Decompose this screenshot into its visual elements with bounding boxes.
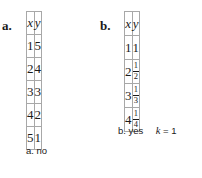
fraction: 1 3 xyxy=(133,85,139,104)
table-b-cell-y: 1 2 xyxy=(132,60,140,84)
table-b-header-y: y xyxy=(132,12,140,36)
table-row: 2 1 2 xyxy=(125,60,140,84)
table-a-header-x: x xyxy=(27,12,35,35)
table-row: 3 1 3 xyxy=(125,84,140,108)
answer-b-prefix: b. xyxy=(118,125,126,136)
table-b-header-x: x xyxy=(125,12,133,36)
table-row: 1 5 xyxy=(27,35,42,58)
table-b-cell-x: 3 xyxy=(125,84,133,108)
table-a-header-y: y xyxy=(34,12,42,35)
table-a-cell-y: 2 xyxy=(34,104,42,127)
table-a: x y 1 5 2 4 3 3 4 2 xyxy=(26,11,42,150)
fraction-numerator: 1 xyxy=(133,85,139,94)
fraction-denominator: 3 xyxy=(133,95,139,105)
part-a-label: a. xyxy=(2,19,12,32)
table-a-cell-x: 1 xyxy=(27,35,35,58)
answer-b: b. yes k = 1 xyxy=(118,126,176,137)
answer-b-equals: = xyxy=(163,125,169,136)
table-b-cell-x: 1 xyxy=(125,36,133,60)
answer-a: a. no xyxy=(26,146,47,156)
table-a-cell-y: 3 xyxy=(34,81,42,104)
fraction-numerator: 1 xyxy=(133,109,139,118)
table-a-cell-y: 5 xyxy=(34,35,42,58)
answer-a-verdict: no xyxy=(37,145,48,156)
table-a-cell-x: 3 xyxy=(27,81,35,104)
fraction: 1 2 xyxy=(133,61,139,80)
answer-a-prefix: a. xyxy=(26,145,34,156)
fraction-denominator: 2 xyxy=(133,71,139,81)
part-b-label: b. xyxy=(100,19,110,32)
answer-b-constant-symbol: k xyxy=(156,125,161,136)
table-a-header-row: x y xyxy=(27,12,42,35)
variation-tables-figure: a. x y 1 5 2 4 3 3 xyxy=(0,0,202,178)
table-a-cell-y: 4 xyxy=(34,58,42,81)
table-a-cell-x: 4 xyxy=(27,104,35,127)
table-b-header-row: x y xyxy=(125,12,140,36)
table-a-cell-x: 2 xyxy=(27,58,35,81)
table-row: 2 4 xyxy=(27,58,42,81)
table-row: 4 2 xyxy=(27,104,42,127)
table-b-cell-y: 1 xyxy=(132,36,140,60)
table-b-cell-y: 1 3 xyxy=(132,84,140,108)
table-b-cell-x: 2 xyxy=(125,60,133,84)
answer-b-verdict: yes xyxy=(129,125,144,136)
table-b: x y 1 1 2 1 2 3 xyxy=(124,11,140,132)
fraction-numerator: 1 xyxy=(133,61,139,70)
table-row: 3 3 xyxy=(27,81,42,104)
answer-b-constant-value: 1 xyxy=(171,125,176,136)
table-row: 1 1 xyxy=(125,36,140,60)
